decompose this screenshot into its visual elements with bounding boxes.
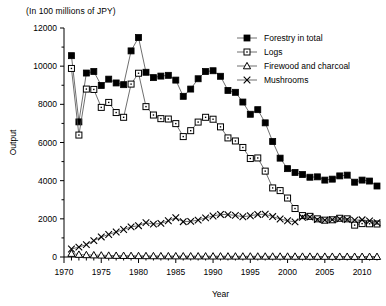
data-point-center <box>205 117 206 118</box>
data-point-center <box>115 112 116 113</box>
y-tick-label: 6000 <box>38 138 57 148</box>
data-point <box>203 69 209 75</box>
data-point-center <box>86 88 87 89</box>
data-point-center <box>101 107 102 108</box>
x-tick-label: 1990 <box>204 267 223 277</box>
series-line <box>71 68 377 225</box>
data-point <box>225 87 231 93</box>
legend-label: Forestry in total <box>264 33 323 43</box>
x-tick-label: 1995 <box>241 267 260 277</box>
data-point <box>68 53 74 59</box>
x-axis-title: Year <box>212 289 229 299</box>
legend-label: Logs <box>264 47 282 57</box>
data-point-center <box>369 223 370 224</box>
legend-label: Firewood and charcoal <box>264 61 350 71</box>
x-tick-label: 1980 <box>129 267 148 277</box>
data-point <box>83 70 89 76</box>
y-tick-label: 8000 <box>38 99 57 109</box>
series-logs <box>68 65 380 228</box>
data-point <box>367 178 373 184</box>
x-tick-label: 2005 <box>315 267 334 277</box>
data-point-center <box>294 208 295 209</box>
data-point <box>232 89 238 95</box>
data-point-center <box>71 68 72 69</box>
data-point <box>240 99 246 105</box>
data-point <box>270 139 276 145</box>
data-point-center <box>197 121 198 122</box>
data-point-center <box>168 118 169 119</box>
data-point <box>337 173 343 179</box>
data-point-center <box>93 89 94 90</box>
data-point-center <box>212 119 213 120</box>
data-point-center <box>250 158 251 159</box>
data-point-center <box>108 102 109 103</box>
data-point <box>277 155 283 161</box>
data-point <box>299 172 305 178</box>
data-point <box>128 48 134 54</box>
data-point <box>314 174 320 180</box>
x-tick-label: 1985 <box>166 267 185 277</box>
data-point-center <box>354 224 355 225</box>
x-tick-label: 1970 <box>55 267 74 277</box>
data-point <box>255 107 261 113</box>
data-point <box>210 68 216 74</box>
data-point-center <box>257 157 258 158</box>
data-point <box>247 111 253 117</box>
data-point-center <box>145 106 146 107</box>
data-point <box>262 120 268 126</box>
unit-note: (In 100 millions of JPY) <box>26 6 116 16</box>
x-tick-label: 1975 <box>92 267 111 277</box>
x-tick-label: 2010 <box>353 267 372 277</box>
data-point-center <box>272 187 273 188</box>
data-point <box>165 72 171 78</box>
legend-marker-open-square-marker-center <box>246 51 247 52</box>
data-point-center <box>153 114 154 115</box>
data-point <box>180 93 186 99</box>
y-tick-label: 2000 <box>38 214 57 224</box>
data-point-center <box>160 118 161 119</box>
data-point <box>136 35 142 41</box>
data-point <box>218 73 224 79</box>
data-point <box>352 179 358 185</box>
data-point <box>307 174 313 180</box>
data-point <box>322 177 328 183</box>
legend-marker-filled-square-marker <box>244 35 250 41</box>
data-point <box>113 80 119 86</box>
data-point <box>195 76 201 82</box>
legend-label: Mushrooms <box>264 75 308 85</box>
data-point <box>158 73 164 79</box>
y-tick-label: 4000 <box>38 176 57 186</box>
data-point-center <box>287 197 288 198</box>
data-point <box>188 86 194 92</box>
data-point-center <box>235 140 236 141</box>
data-point-center <box>227 137 228 138</box>
data-point-center <box>361 223 362 224</box>
x-tick-label: 2000 <box>278 267 297 277</box>
data-point <box>121 82 127 88</box>
data-point-center <box>78 134 79 135</box>
data-point-center <box>279 190 280 191</box>
data-point-center <box>242 147 243 148</box>
forestry-output-chart: (In 100 millions of JPY) 020004000600080… <box>0 0 386 306</box>
data-point <box>106 76 112 82</box>
chart-plot-area: 0200040006000800010000120001970197519801… <box>0 0 386 306</box>
data-point-center <box>190 130 191 131</box>
y-tick-label: 12000 <box>33 23 57 33</box>
data-point-center <box>175 123 176 124</box>
y-tick-label: 0 <box>52 252 57 262</box>
data-point <box>344 172 350 178</box>
data-point <box>98 82 104 88</box>
data-point <box>359 177 365 183</box>
data-point-center <box>123 117 124 118</box>
data-point <box>374 183 380 189</box>
y-axis-title: Output <box>8 129 18 155</box>
data-point-center <box>220 126 221 127</box>
data-point-center <box>138 73 139 74</box>
data-point-center <box>130 83 131 84</box>
data-point <box>143 69 149 75</box>
series-firewood-and-charcoal <box>68 250 381 259</box>
data-point <box>292 169 298 175</box>
data-point <box>285 166 291 172</box>
data-point <box>173 77 179 83</box>
data-point-center <box>183 136 184 137</box>
